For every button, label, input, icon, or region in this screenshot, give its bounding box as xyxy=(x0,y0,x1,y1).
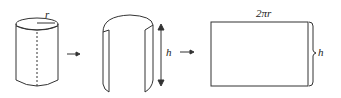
brace-icon xyxy=(309,22,316,86)
arrow-right-icon xyxy=(180,50,194,54)
height-arrow-icon xyxy=(158,24,164,86)
cut-open-cylinder-shape xyxy=(103,15,153,92)
rect-height-label: h xyxy=(318,46,324,58)
arrow-right-icon xyxy=(67,52,80,56)
circumference-label: 2πr xyxy=(256,7,271,19)
unrolled-rectangle xyxy=(211,22,308,86)
radius-label: r xyxy=(45,8,49,20)
cylinder-shape xyxy=(16,18,58,86)
height-label: h xyxy=(166,46,172,58)
